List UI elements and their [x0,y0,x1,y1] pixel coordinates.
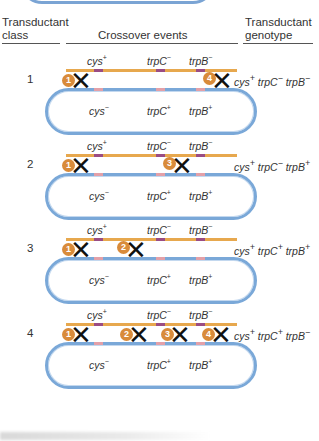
recipient-label-trpB: trpB+ [189,358,212,371]
donor-marker [156,154,165,157]
figure-caption-blurred [0,432,210,440]
recipient-marker [196,257,205,260]
donor-label-trpB: trpB− [189,308,212,321]
transductant-genotype: cys+ trpC− trpB− [234,73,310,88]
recipient-label-trpB: trpB+ [189,189,212,202]
donor-label-trpC: trpC− [147,139,171,152]
recipient-label-trpC: trpC+ [147,104,171,117]
donor-label-trpC: trpC− [147,308,171,321]
recipient-marker [156,88,165,91]
recipient-marker [156,257,165,260]
recipient-label-trpC: trpC+ [147,273,171,286]
recipient-label-cys: cys− [89,189,109,202]
donor-label-cys: cys+ [87,139,107,152]
donor-label-trpB: trpB− [189,223,212,236]
donor-marker [94,323,103,326]
recipient-label-cys: cys− [89,273,109,286]
donor-marker [156,69,165,72]
recipient-marker [94,88,103,91]
transductant-row-2: cys+ trpC− trpB− 2 1 ✕ 3 ✕ cys+ trpC− tr… [0,137,319,222]
class-number: 2 [27,158,33,170]
donor-marker [196,154,205,157]
transductant-genotype: cys+ trpC− trpB+ [234,158,310,173]
recipient-marker [94,257,103,260]
recipient-marker [94,173,103,176]
transductant-row-3: cys+ trpC− trpB− 3 1 ✕ 2 ✕ cys+ trpC+ tr… [0,221,319,306]
donor-label-cys: cys+ [87,223,107,236]
donor-label-cys: cys+ [87,54,107,67]
recipient-marker [94,342,103,345]
recipient-label-trpC: trpC+ [147,189,171,202]
recipient-label-trpC: trpC+ [147,358,171,371]
recipient-label-cys: cys− [89,104,109,117]
donor-label-trpB: trpB− [189,139,212,152]
donor-marker [156,238,165,241]
donor-label-trpB: trpB− [189,54,212,67]
donor-marker [94,238,103,241]
header-text: genotype [245,29,312,42]
header-text: class [2,29,69,42]
donor-label-trpC: trpC− [147,223,171,236]
recipient-label-trpB: trpB+ [189,104,212,117]
recipient-marker [196,173,205,176]
donor-marker [196,323,205,326]
header-rule [243,43,313,44]
donor-marker [196,69,205,72]
transductant-row-1: cys+ trpC− trpB− 1 1 ✕ 4 ✕ cys+ trpC− tr… [0,52,319,137]
header-crossover-events: Crossover events [98,29,187,42]
recipient-label-cys: cys− [89,358,109,371]
donor-marker [94,154,103,157]
recipient-marker [156,342,165,345]
donor-label-trpC: trpC− [147,54,171,67]
header-transductant-class: Transductant class [2,16,69,42]
header-text: Transductant [2,16,69,29]
donor-label-cys: cys+ [87,308,107,321]
header-rule [66,43,238,44]
transductant-genotype: cys+ trpC+ trpB− [234,327,310,342]
header-rule [2,43,60,44]
recipient-marker [156,173,165,176]
donor-marker [94,69,103,72]
recipient-label-trpB: trpB+ [189,273,212,286]
transductant-row-4: cys+ trpC− trpB− 4 1 ✕ 2 ✕ 3 ✕ 4 ✕ cys+ … [0,306,319,391]
header-transductant-genotype: Transductant genotype [245,16,312,42]
class-number: 1 [27,73,33,85]
donor-marker [156,323,165,326]
header-text: Transductant [245,16,312,29]
transductant-genotype: cys+ trpC+ trpB+ [234,242,310,257]
class-number: 3 [27,242,33,254]
recipient-marker [196,342,205,345]
partial-chromosome-ring [20,0,215,4]
class-number: 4 [27,327,33,339]
recipient-marker [196,88,205,91]
donor-marker [196,238,205,241]
